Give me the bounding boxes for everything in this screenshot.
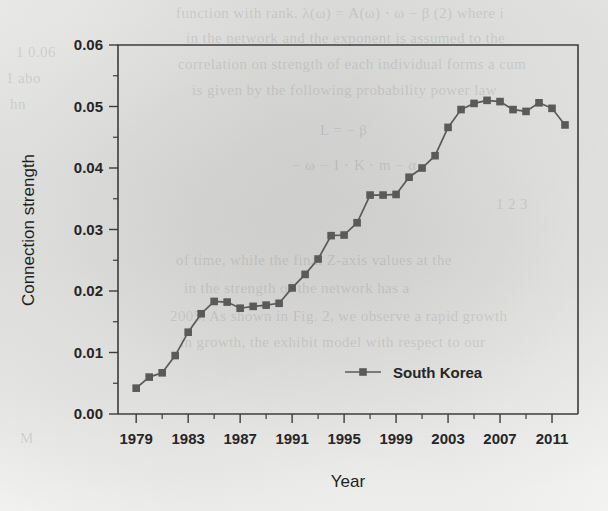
data-point-marker (379, 191, 387, 199)
data-point-marker (171, 352, 179, 360)
data-point-marker (470, 100, 478, 108)
data-point-marker (236, 304, 244, 312)
legend-label-south-korea: South Korea (393, 364, 483, 381)
x-axis-tick-label: 1991 (275, 430, 308, 447)
x-axis-tick-label: 1983 (171, 430, 204, 447)
y-axis-tick-label: 0.03 (74, 221, 103, 238)
x-axis-tick-label: 1979 (120, 430, 153, 447)
data-point-marker (158, 369, 166, 377)
data-point-marker (197, 310, 205, 318)
connection-strength-line-chart: 0.000.010.020.030.040.050.06 19791983198… (0, 0, 608, 511)
data-point-marker (210, 298, 218, 306)
data-point-marker (444, 124, 452, 132)
data-point-marker (392, 191, 400, 199)
data-point-marker (548, 105, 556, 113)
series-line-south-korea (136, 100, 565, 388)
data-point-marker (418, 164, 426, 172)
x-axis-tick-label: 1995 (327, 430, 360, 447)
plot-border (118, 45, 578, 414)
data-point-marker (457, 106, 465, 114)
data-point-marker (184, 328, 192, 336)
data-point-marker (132, 384, 140, 392)
data-point-marker (496, 98, 504, 106)
data-point-marker (366, 191, 374, 199)
data-point-marker (314, 255, 322, 263)
y-axis-tick-label: 0.00 (74, 405, 103, 422)
data-point-marker (288, 284, 296, 292)
data-point-marker (535, 99, 543, 107)
data-series-group (132, 97, 568, 392)
x-axis-tick-label: 1987 (223, 430, 256, 447)
chart-legend: South Korea (345, 364, 483, 381)
y-axis-tick-labels: 0.000.010.020.030.040.050.06 (74, 36, 104, 422)
y-axis-tick-label: 0.05 (74, 98, 103, 115)
data-point-marker (327, 232, 335, 240)
data-point-marker (431, 152, 439, 160)
plot-frame (118, 45, 578, 414)
data-point-marker (509, 106, 517, 114)
data-point-marker (249, 303, 257, 311)
data-point-marker (561, 121, 569, 129)
data-point-marker (145, 373, 153, 381)
data-point-marker (405, 173, 413, 181)
y-axis-ticks (109, 45, 118, 414)
data-point-marker (301, 271, 309, 279)
x-axis-title: Year (331, 472, 366, 491)
data-point-marker (522, 108, 530, 116)
y-axis-tick-label: 0.04 (74, 159, 104, 176)
y-axis-tick-label: 0.06 (74, 36, 103, 53)
x-axis-ticks (136, 414, 552, 423)
y-axis-tick-label: 0.01 (74, 344, 103, 361)
data-point-marker (275, 300, 283, 308)
x-axis-tick-label: 2011 (536, 430, 569, 447)
data-point-marker (340, 231, 348, 239)
y-axis-title: Connection strength (19, 154, 38, 306)
x-axis-tick-label: 2007 (483, 430, 516, 447)
x-axis-tick-label: 2003 (431, 430, 464, 447)
data-point-marker (262, 301, 270, 309)
x-axis-tick-labels: 197919831987199119951999200320072011 (120, 430, 569, 447)
x-axis-tick-label: 1999 (379, 430, 412, 447)
y-axis-tick-label: 0.02 (74, 282, 103, 299)
chart-svg: 0.000.010.020.030.040.050.06 19791983198… (0, 0, 608, 511)
data-point-marker (483, 97, 491, 105)
legend-marker-sample (359, 368, 367, 376)
data-point-marker (353, 219, 361, 227)
data-point-marker (223, 298, 231, 306)
